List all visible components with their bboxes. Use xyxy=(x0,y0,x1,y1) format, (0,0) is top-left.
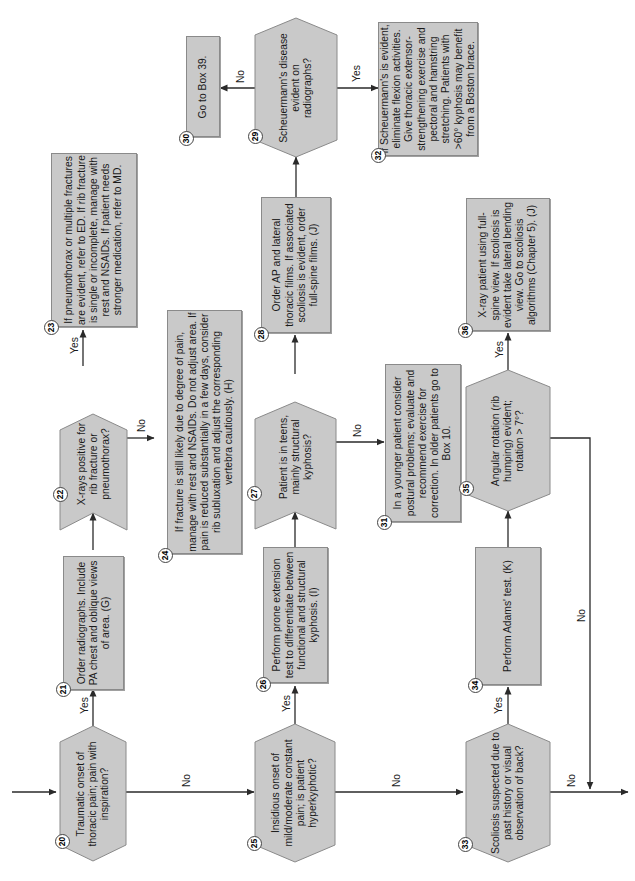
edge-label-29-yes: Yes xyxy=(351,65,362,82)
process-23: If pneumothorax or multiple fractures ar… xyxy=(51,153,137,327)
step-number-26: 26 xyxy=(256,677,271,692)
decision-22-text: X-rays positive for rib fracture or pneu… xyxy=(64,416,124,512)
process-34: Perform Adams' test. (K) xyxy=(475,547,541,685)
decision-33: Scoliosis suspected due to past history … xyxy=(466,724,550,862)
process-23-text: If pneumothorax or multiple fractures ar… xyxy=(53,155,135,325)
decision-25: Insidious onset of mild/moderate constan… xyxy=(255,724,335,862)
process-31: In a younger patient consider postural p… xyxy=(385,364,461,522)
step-number-22: 22 xyxy=(53,487,68,502)
process-26-text: Perform prone extension test to differen… xyxy=(265,549,327,681)
process-21-text: Order radiographs. Include PA chest and … xyxy=(65,558,123,688)
step-number-30: 30 xyxy=(179,131,194,146)
decision-33-text: Scoliosis suspected due to past history … xyxy=(470,731,546,855)
step-number-33: 33 xyxy=(458,837,473,852)
decision-27: Patient is in teens, mainly structural k… xyxy=(255,402,336,512)
edge-label-33-yes: Yes xyxy=(493,697,504,714)
step-number-24: 24 xyxy=(158,548,173,563)
edge-label-33-no: No xyxy=(566,774,577,787)
edge-label-20-yes: Yes xyxy=(79,697,90,714)
step-number-32: 32 xyxy=(371,148,386,163)
decision-25-text: Insidious onset of mild/moderate constan… xyxy=(258,733,332,853)
edge-label-25-yes: Yes xyxy=(281,695,292,712)
process-32: If Scheuermann's is evident, eliminate f… xyxy=(378,22,478,156)
process-24: If fracture is still likely due to degre… xyxy=(167,310,242,554)
process-30-text: Go to Box 39. xyxy=(188,38,218,136)
process-30: Go to Box 39. xyxy=(186,36,220,137)
step-number-20: 20 xyxy=(55,834,70,849)
process-28: Order AP and lateral thoracic films. If … xyxy=(261,197,331,333)
step-number-31: 31 xyxy=(377,515,392,530)
process-36-text: X-ray patient using full-spine view. If … xyxy=(468,201,548,329)
process-36: X-ray patient using full-spine view. If … xyxy=(466,198,550,331)
edge-label-27-no: No xyxy=(352,424,363,437)
decision-27-text: Patient is in teens, mainly structural k… xyxy=(260,409,332,505)
flowchart: .rb { position:absolute; box-sizing:bord… xyxy=(0,0,635,881)
decision-29-text: Scheuermann's disease evident on radiogr… xyxy=(260,33,332,143)
process-26: Perform prone extension test to differen… xyxy=(263,547,328,683)
step-number-27: 27 xyxy=(247,486,262,501)
edge-label-22-no: No xyxy=(136,419,147,432)
decision-29: Scheuermann's disease evident on radiogr… xyxy=(255,18,337,157)
process-28-text: Order AP and lateral thoracic films. If … xyxy=(263,199,329,331)
process-24-text: If fracture is still likely due to degre… xyxy=(169,312,241,552)
step-number-36: 36 xyxy=(458,323,473,338)
step-number-28: 28 xyxy=(254,327,269,342)
edge-label-35-no: No xyxy=(576,609,587,622)
step-number-29: 29 xyxy=(248,129,263,144)
edge-label-22-yes: Yes xyxy=(69,337,80,354)
decision-22: X-rays positive for rib fracture or pneu… xyxy=(60,414,127,513)
step-number-35: 35 xyxy=(459,481,474,496)
edge-label-29-no: No xyxy=(235,70,246,83)
edge-label-25-no: No xyxy=(391,774,402,787)
decision-35-text: Angular rotation (rib humping) evident; … xyxy=(470,386,546,496)
step-number-34: 34 xyxy=(468,678,483,693)
step-number-23: 23 xyxy=(44,320,59,335)
edge-label-35-yes: Yes xyxy=(494,341,505,358)
step-number-21: 21 xyxy=(56,682,71,697)
process-34-text: Perform Adams' test. (K) xyxy=(477,549,539,683)
process-31-text: In a younger patient consider postural p… xyxy=(387,366,459,520)
step-number-25: 25 xyxy=(247,836,262,851)
process-21: Order radiographs. Include PA chest and … xyxy=(63,556,124,690)
process-32-text: If Scheuermann's is evident, eliminate f… xyxy=(380,24,476,154)
decision-35: Angular rotation (rib humping) evident; … xyxy=(466,370,550,511)
edge-label-20-no: No xyxy=(181,774,192,787)
decision-20-text: Traumatic onset of thoracic pain; pain w… xyxy=(63,734,123,854)
